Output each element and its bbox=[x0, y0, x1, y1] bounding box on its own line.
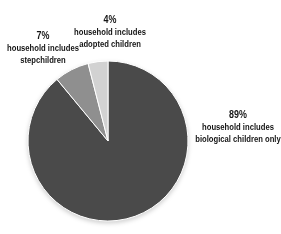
label-stepchildren-line2: stepchildren bbox=[0, 54, 90, 67]
label-stepchildren-line1: household includes bbox=[0, 42, 90, 55]
label-biological-children: 89% household includes biological childr… bbox=[191, 108, 281, 146]
percent-biological: 89% bbox=[191, 108, 281, 121]
percent-adopted: 4% bbox=[63, 13, 157, 26]
percent-stepchildren: 7% bbox=[0, 29, 90, 42]
pie-chart-figure: 4% household includes adopted children 7… bbox=[0, 0, 281, 234]
label-stepchildren: 7% household includes stepchildren bbox=[0, 29, 90, 67]
label-biological-line2: biological children only bbox=[191, 133, 281, 146]
label-biological-line1: household includes bbox=[191, 121, 281, 134]
